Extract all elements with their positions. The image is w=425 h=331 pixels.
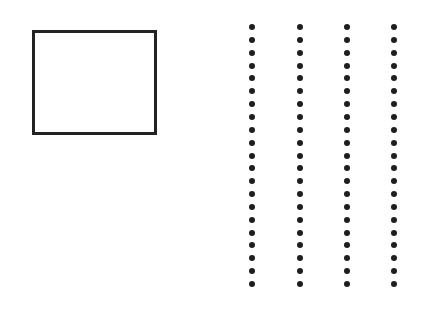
dot bbox=[249, 255, 255, 261]
dot bbox=[391, 217, 397, 223]
dot bbox=[344, 217, 350, 223]
dot bbox=[391, 50, 397, 56]
dot bbox=[344, 281, 350, 287]
dot bbox=[297, 63, 303, 69]
dot bbox=[297, 114, 303, 120]
dot bbox=[344, 140, 350, 146]
dot bbox=[297, 191, 303, 197]
dot bbox=[391, 281, 397, 287]
dot bbox=[391, 37, 397, 43]
dot bbox=[391, 242, 397, 248]
dot bbox=[344, 178, 350, 184]
dot bbox=[249, 242, 255, 248]
dot bbox=[391, 63, 397, 69]
dot bbox=[391, 75, 397, 81]
dot bbox=[297, 230, 303, 236]
dot bbox=[297, 281, 303, 287]
dot bbox=[297, 50, 303, 56]
dot bbox=[391, 153, 397, 159]
dot bbox=[249, 281, 255, 287]
dot bbox=[297, 101, 303, 107]
dot bbox=[344, 75, 350, 81]
dot bbox=[391, 204, 397, 210]
dot bbox=[249, 204, 255, 210]
dot bbox=[297, 88, 303, 94]
dot bbox=[344, 268, 350, 274]
dot bbox=[249, 50, 255, 56]
dot bbox=[249, 140, 255, 146]
dot bbox=[297, 255, 303, 261]
dot bbox=[344, 37, 350, 43]
dot bbox=[391, 178, 397, 184]
dot bbox=[344, 63, 350, 69]
dot bbox=[249, 88, 255, 94]
dot bbox=[249, 153, 255, 159]
dot bbox=[297, 127, 303, 133]
dot bbox=[344, 101, 350, 107]
dot bbox=[344, 114, 350, 120]
dot bbox=[391, 268, 397, 274]
dot bbox=[249, 230, 255, 236]
dot bbox=[391, 140, 397, 146]
dot bbox=[249, 101, 255, 107]
dot bbox=[391, 165, 397, 171]
dot bbox=[249, 178, 255, 184]
dot bbox=[249, 127, 255, 133]
dot bbox=[344, 242, 350, 248]
dot bbox=[297, 75, 303, 81]
dot bbox=[297, 217, 303, 223]
outlined-rectangle bbox=[32, 30, 157, 135]
dot bbox=[344, 127, 350, 133]
dot bbox=[344, 24, 350, 30]
dot bbox=[391, 101, 397, 107]
dot bbox=[344, 255, 350, 261]
dot bbox=[249, 114, 255, 120]
dot bbox=[344, 88, 350, 94]
dot bbox=[297, 153, 303, 159]
dot bbox=[391, 191, 397, 197]
dot bbox=[344, 165, 350, 171]
dot bbox=[297, 178, 303, 184]
dot bbox=[391, 24, 397, 30]
dot bbox=[344, 50, 350, 56]
dot bbox=[249, 191, 255, 197]
dot bbox=[249, 37, 255, 43]
dot bbox=[391, 88, 397, 94]
dot bbox=[344, 153, 350, 159]
dot bbox=[391, 114, 397, 120]
dot bbox=[249, 268, 255, 274]
dot bbox=[391, 127, 397, 133]
dot bbox=[297, 268, 303, 274]
dot bbox=[249, 24, 255, 30]
dot bbox=[249, 75, 255, 81]
dot bbox=[297, 242, 303, 248]
dot bbox=[344, 191, 350, 197]
dot bbox=[297, 204, 303, 210]
dot bbox=[297, 140, 303, 146]
dot bbox=[297, 37, 303, 43]
dot bbox=[391, 230, 397, 236]
dot bbox=[297, 165, 303, 171]
dot bbox=[344, 230, 350, 236]
dot bbox=[391, 255, 397, 261]
dot bbox=[249, 217, 255, 223]
dot bbox=[249, 63, 255, 69]
dot bbox=[249, 165, 255, 171]
dot bbox=[344, 204, 350, 210]
dot bbox=[297, 24, 303, 30]
